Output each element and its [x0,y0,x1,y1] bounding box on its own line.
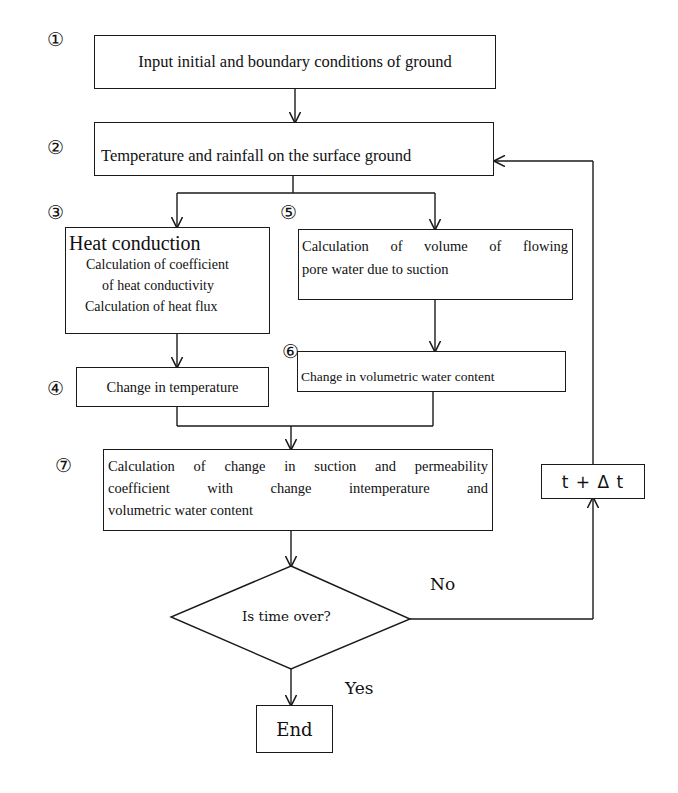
step-number-5: ⑤ [280,203,297,223]
heat-line-1: Calculation of coefficient [86,257,229,273]
water-content-change-box: Change in volumetric water content [297,351,566,392]
heat-line-2: of heat conductivity [102,278,214,294]
heat-conduction-box: Heat conduction Calculation of coefficie… [65,227,270,334]
temperature-change-label: Change in temperature [106,379,238,396]
input-conditions-label: Input initial and boundary conditions of… [138,52,451,72]
heat-line-3: Calculation of heat flux [85,299,218,315]
step-number-1: ① [47,30,64,50]
surface-conditions-box: Temperature and rainfall on the surface … [94,122,494,176]
input-conditions-box: Input initial and boundary conditions of… [94,35,496,89]
suction-line-1: Calculation of change in suction and per… [108,455,488,477]
decision-label: Is time over? [242,608,331,624]
suction-permeability-box: Calculation of change in suction and per… [103,449,493,531]
temperature-change-box: Change in temperature [76,367,269,407]
time-increment-label: t + Δ t [562,472,624,492]
suction-permeability-text: Calculation of change in suction and per… [108,455,488,521]
suction-line-3: volumetric water content [108,499,488,521]
step-number-4: ④ [47,379,64,399]
no-branch-label: No [430,574,455,594]
end-box: End [256,705,333,753]
pore-water-line-1: Calculation of volume of flowing [302,235,568,258]
pore-water-line-2: pore water due to suction [302,258,568,281]
pore-water-text: Calculation of volume of flowing pore wa… [302,235,568,281]
step-number-3: ③ [47,203,64,223]
water-content-change-label: Change in volumetric water content [301,369,494,385]
step-number-2: ② [47,138,64,158]
end-label: End [276,719,312,740]
surface-conditions-label: Temperature and rainfall on the surface … [101,146,411,166]
time-increment-box: t + Δ t [541,464,645,499]
suction-line-2: coefficient with change intemperature an… [108,477,488,499]
flowchart-canvas: ① ② ③ ④ ⑤ ⑥ ⑦ Input initial and boundary… [0,0,678,793]
pore-water-box: Calculation of volume of flowing pore wa… [298,229,573,300]
yes-branch-label: Yes [345,678,374,698]
heat-conduction-title: Heat conduction [69,232,201,255]
step-number-7: ⑦ [55,456,72,476]
